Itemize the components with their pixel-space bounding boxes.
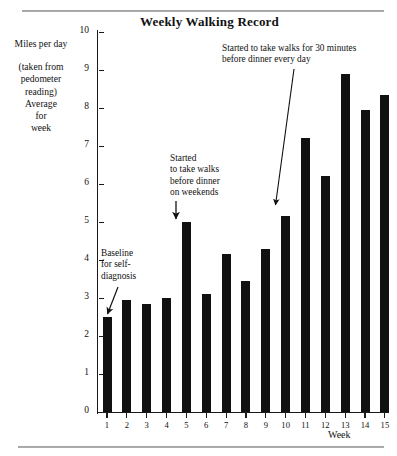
bar (142, 304, 151, 412)
x-tick-label: 6 (198, 420, 214, 430)
page-rule-top (22, 10, 384, 12)
y-tick-mark (99, 184, 104, 185)
x-tick-mark (245, 413, 246, 418)
bar (361, 110, 370, 412)
y-tick-mark (99, 32, 104, 33)
x-tick-label: 1 (99, 420, 115, 430)
annotation-baseline: Baseline for self- diagnosis (101, 248, 136, 282)
bar (122, 300, 131, 412)
bar (341, 74, 350, 412)
bar (241, 281, 250, 412)
x-tick-mark (206, 413, 207, 418)
x-tick-mark (186, 413, 187, 418)
x-tick-label: 2 (119, 420, 135, 430)
y-tick-mark (99, 108, 104, 109)
chart-page: Weekly Walking Record Miles per day (tak… (0, 0, 397, 456)
y-tick-label: 7 (84, 139, 89, 149)
y-tick-label: 10 (80, 25, 90, 35)
x-tick-mark (146, 413, 147, 418)
x-tick-label: 10 (278, 420, 294, 430)
y-tick-label: 5 (84, 215, 89, 225)
x-tick-mark (166, 413, 167, 418)
x-tick-label: 3 (139, 420, 155, 430)
y-axis-label: Miles per day (taken from pedometer read… (2, 38, 80, 134)
bar (162, 298, 171, 412)
y-tick-label: 4 (84, 253, 89, 263)
plot-area: 012345678910 123456789101112131415 (93, 26, 395, 418)
y-tick-label: 0 (84, 405, 89, 415)
y-tick-label: 1 (84, 367, 89, 377)
bar (222, 254, 231, 412)
x-tick-mark (345, 413, 346, 418)
x-tick-mark (384, 413, 385, 418)
bar (301, 138, 310, 412)
x-tick-mark (325, 413, 326, 418)
y-tick-label: 9 (84, 63, 89, 73)
x-tick-label: 4 (159, 420, 175, 430)
y-tick-label: 8 (84, 101, 89, 111)
y-axis-label-sub: (taken from pedometer reading) Average f… (2, 61, 80, 134)
bar (182, 222, 191, 412)
x-tick-mark (305, 413, 306, 418)
x-tick-label: 15 (377, 420, 393, 430)
annotation-every-day: Started to take walks for 30 minutes bef… (222, 43, 356, 66)
bar (281, 216, 290, 412)
bar (261, 249, 270, 412)
x-tick-mark (285, 413, 286, 418)
x-tick-mark (226, 413, 227, 418)
x-tick-mark (126, 413, 127, 418)
y-tick-label: 2 (84, 329, 89, 339)
y-tick-mark (99, 70, 104, 71)
x-axis-caption: Week (328, 429, 351, 440)
x-tick-label: 5 (178, 420, 194, 430)
bar (321, 176, 330, 412)
y-tick-mark (99, 298, 104, 299)
y-tick-mark (99, 146, 104, 147)
bar (103, 317, 112, 412)
y-tick-label: 6 (84, 177, 89, 187)
x-tick-mark (364, 413, 365, 418)
x-tick-label: 11 (298, 420, 314, 430)
x-tick-label: 14 (357, 420, 373, 430)
page-rule-bottom (18, 446, 384, 448)
x-tick-label: 8 (238, 420, 254, 430)
y-axis-label-main: Miles per day (2, 38, 80, 50)
x-tick-label: 7 (218, 420, 234, 430)
x-tick-mark (265, 413, 266, 418)
y-tick-label: 3 (84, 291, 89, 301)
y-tick-mark (99, 412, 104, 413)
bar (202, 294, 211, 412)
bar (380, 95, 389, 412)
y-tick-mark (99, 222, 104, 223)
annotation-weekends: Started to take walks before dinner on w… (170, 153, 220, 199)
x-tick-label: 9 (258, 420, 274, 430)
x-tick-mark (106, 413, 107, 418)
